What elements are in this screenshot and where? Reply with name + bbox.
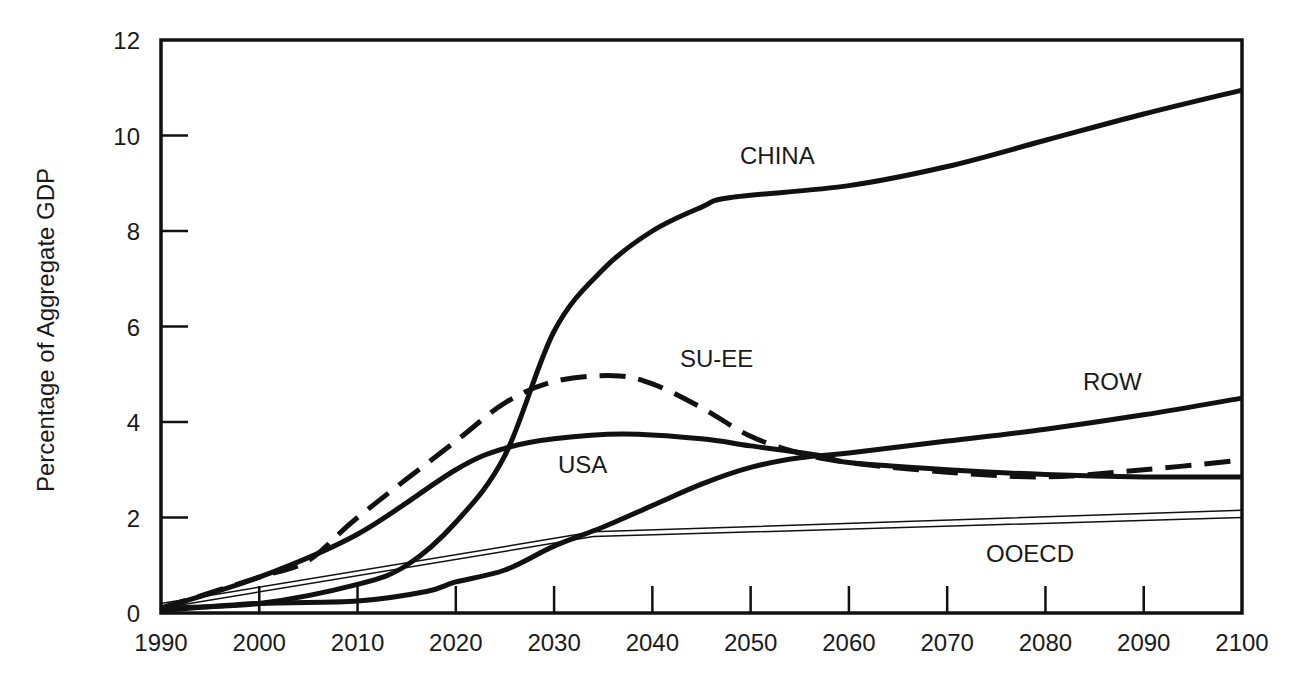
x-tick-label: 2040 xyxy=(626,629,679,656)
x-tick-label: 1990 xyxy=(134,629,187,656)
y-tick-label: 4 xyxy=(127,409,140,436)
y-axis-label: Percentage of Aggregate GDP xyxy=(32,168,59,492)
x-tick-label: 2070 xyxy=(920,629,973,656)
x-tick-label: 2050 xyxy=(724,629,777,656)
y-tick-label: 6 xyxy=(127,314,140,341)
x-tick-label: 2100 xyxy=(1215,629,1268,656)
plot-border xyxy=(161,40,1242,613)
x-tick-label: 2090 xyxy=(1117,629,1170,656)
x-tick-label: 2010 xyxy=(331,629,384,656)
y-tick-label: 10 xyxy=(113,123,140,150)
plot-frame xyxy=(161,40,1242,613)
series-row xyxy=(161,398,1242,610)
x-tick-label: 2080 xyxy=(1019,629,1072,656)
x-tick-label: 2030 xyxy=(527,629,580,656)
label-su-ee: SU-EE xyxy=(680,345,753,372)
y-axis-ticks: 024681012 xyxy=(113,27,188,627)
y-tick-label: 12 xyxy=(113,27,140,54)
label-ooecd: OOECD xyxy=(986,540,1074,567)
label-usa: USA xyxy=(558,451,607,478)
x-tick-label: 2060 xyxy=(822,629,875,656)
line-chart: 024681012 199020002010202020302040205020… xyxy=(0,0,1294,693)
label-china: CHINA xyxy=(740,142,815,169)
x-tick-label: 2020 xyxy=(429,629,482,656)
y-tick-label: 0 xyxy=(127,600,140,627)
label-row: ROW xyxy=(1083,368,1142,395)
y-tick-label: 8 xyxy=(127,218,140,245)
x-tick-label: 2000 xyxy=(233,629,286,656)
series-ooecd-upper xyxy=(161,510,1242,603)
series-labels: CHINA SU-EE USA ROW OOECD xyxy=(558,142,1142,567)
y-tick-label: 2 xyxy=(127,505,140,532)
series-su-ee xyxy=(161,376,1242,609)
